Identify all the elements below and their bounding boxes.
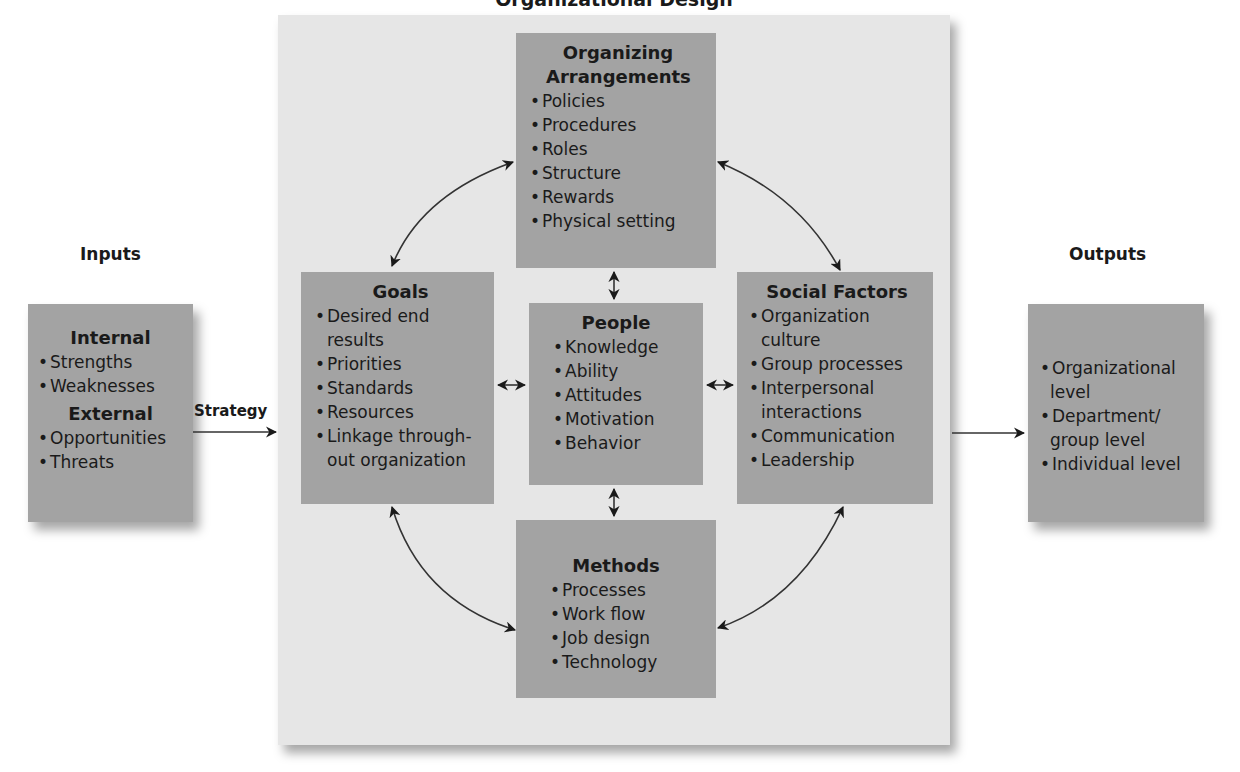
goals-arrangements-arrow: [392, 162, 513, 266]
connector-arrows: [0, 0, 1240, 772]
arrangements-social-arrow: [718, 162, 840, 270]
goals-methods-arrow: [392, 507, 515, 630]
social-methods-arrow: [718, 507, 843, 628]
